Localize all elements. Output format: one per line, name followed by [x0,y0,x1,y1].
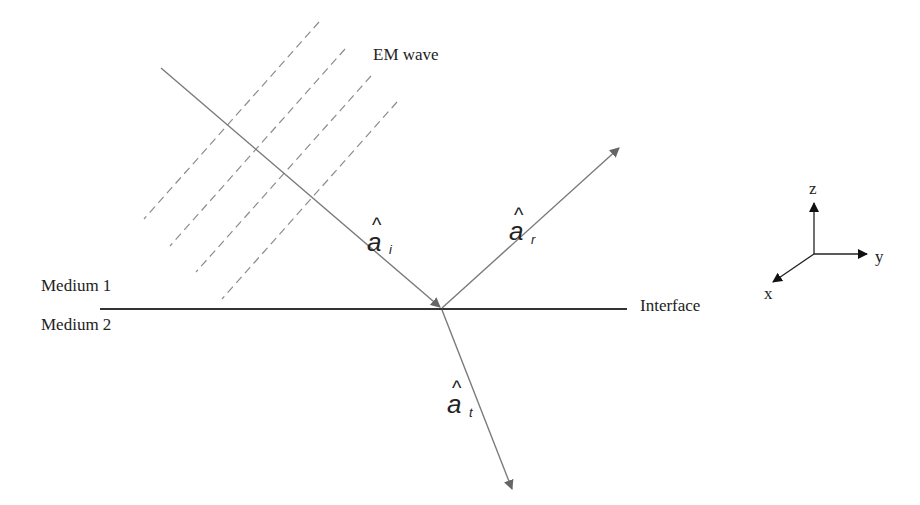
wavefront-line [196,76,371,272]
transmitted-vector-label: ^ a t [447,377,474,420]
vector-subscript: t [469,405,474,420]
reflected-vector-label: ^ a r [509,204,536,247]
wavefront-line [170,49,345,246]
diagram-canvas: EM wave Medium 1 Medium 2 Interface ^ a … [0,0,920,505]
wavefront-line [222,102,397,299]
reflected-ray [442,148,619,308]
x-axis [773,254,814,282]
vector-subscript: r [531,232,536,247]
vector-symbol: a [447,389,461,419]
vector-symbol: a [367,227,381,257]
y-axis-label: y [875,247,884,266]
wavefront-line [144,22,319,219]
interface-label: Interface [640,296,700,315]
medium-1-label: Medium 1 [41,276,111,295]
z-axis-label: z [809,179,817,198]
em-wave-label: EM wave [373,45,439,64]
incident-ray [161,68,440,307]
coordinate-axes: z y x [764,179,884,303]
vector-subscript: i [389,242,393,257]
vector-symbol: a [509,216,523,246]
medium-2-label: Medium 2 [41,315,111,334]
wavefronts [144,22,397,299]
x-axis-label: x [764,284,773,303]
incident-vector-label: ^ a i [367,214,393,257]
